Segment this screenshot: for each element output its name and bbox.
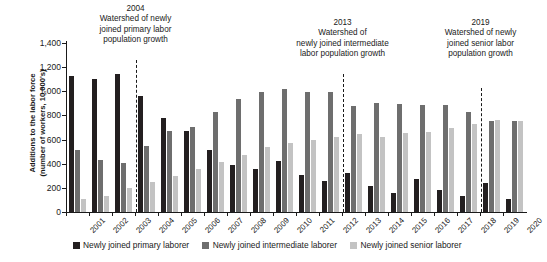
watershed-annotation-text: population growth [66,35,206,45]
x-axis-label: 2020 [525,216,544,235]
bar [443,105,449,212]
bar [437,190,443,212]
bar [69,76,75,212]
x-tick-mark [135,212,136,216]
x-axis-label: 2018 [479,216,498,235]
x-axis-label: 2008 [249,216,268,235]
bar [173,176,179,212]
x-axis-label: 2012 [341,216,360,235]
watershed-annotation-text: labor population growth [273,49,413,59]
bar [75,150,81,212]
bar [150,182,156,212]
legend-label: Newly joined senior laborer [360,240,461,250]
x-axis-label: 2007 [226,216,245,235]
watershed-annotation: 2004Watershed of newlyjoined primary lab… [66,4,206,46]
x-tick-mark [503,212,504,216]
legend-label: Newly joined intermediate laborer [213,240,337,250]
bar-group [89,43,112,212]
watershed-annotation-text: joined primary labor [66,25,206,35]
bar [345,173,351,212]
legend-swatch-icon [73,242,80,249]
bar [115,74,121,212]
x-tick-mark [66,212,67,216]
y-axis-title-line-1: Additions to the labor force [28,38,38,208]
bar [420,105,426,212]
bar-group [158,43,181,212]
bar [351,106,357,212]
bar [322,181,328,212]
y-axis-title: Additions to the labor force (number of … [0,0,34,212]
bar [259,92,265,212]
bar [374,103,380,212]
x-tick-mark [480,212,481,216]
watershed-annotation-year: 2019 [411,18,547,28]
bar [242,155,248,212]
bar-group [273,43,296,212]
x-tick-mark [112,212,113,216]
watershed-annotation: 2013Watershed ofnewly joined intermediat… [273,18,413,60]
bar-group [480,43,503,212]
x-axis-label: 2002 [111,216,130,235]
bar [81,199,87,212]
legend-swatch-icon [350,242,357,249]
watershed-divider-line [343,74,344,212]
bar [489,121,495,212]
x-axis-label: 2001 [88,216,107,235]
x-tick-mark [434,212,435,216]
x-axis-label: 2011 [318,216,337,235]
x-tick-mark [411,212,412,216]
bar [512,121,518,212]
legend-item[interactable]: Newly joined intermediate laborer [202,240,337,250]
bar [403,133,409,212]
x-axis-label: 2009 [272,216,291,235]
bar-group [250,43,273,212]
bar [305,92,311,212]
bar-group [319,43,342,212]
watershed-annotation-year: 2004 [66,4,206,14]
legend-label: Newly joined primary laborer [83,240,189,250]
bar [357,134,363,212]
bar [368,186,374,212]
bar [127,188,133,212]
x-tick-mark [273,212,274,216]
legend-item[interactable]: Newly joined primary laborer [73,240,190,250]
watershed-annotation-text: newly joined intermediate [273,39,413,49]
x-tick-mark [388,212,389,216]
bar [167,131,173,212]
bar [483,183,489,212]
bar [397,104,403,212]
bar-group [112,43,135,212]
bar [282,89,288,212]
bar [161,118,167,212]
legend-swatch-icon [202,242,209,249]
bar [121,163,127,212]
bar [230,165,236,212]
x-axis-label: 2017 [456,216,475,235]
bar-group [365,43,388,212]
bar [449,128,455,212]
bar-group [227,43,250,212]
bar [414,179,420,212]
bar [92,79,98,212]
bar [299,175,305,212]
watershed-divider-line [136,60,137,212]
watershed-annotation-text: Watershed of newly [411,28,547,38]
watershed-annotation-year: 2013 [273,18,413,28]
watershed-annotation-text: Watershed of [273,28,413,38]
x-tick-mark [365,212,366,216]
bar-group [388,43,411,212]
x-tick-mark [342,212,343,216]
x-axis-label: 2003 [134,216,153,235]
x-tick-mark [204,212,205,216]
bar [104,196,110,212]
bar [184,131,190,212]
bar [236,99,242,212]
legend-item[interactable]: Newly joined senior laborer [350,240,462,250]
x-axis-label: 2015 [410,216,429,235]
bar [311,140,317,212]
bar-group [342,43,365,212]
bar [213,112,219,212]
bar-group [503,43,526,212]
bar [506,199,512,212]
bar [144,146,150,212]
